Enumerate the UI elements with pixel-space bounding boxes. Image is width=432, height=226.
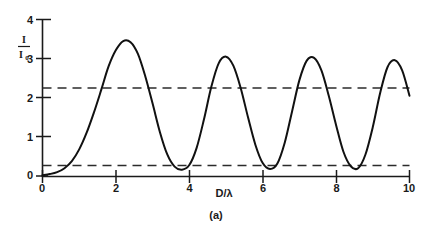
- intensity-curve: [43, 40, 410, 175]
- y-tick-label-1: 1: [27, 131, 33, 143]
- y-axis-label-numerator: I: [22, 34, 26, 45]
- x-tick-label-2: 2: [113, 182, 119, 194]
- x-tick-label-10: 10: [403, 182, 415, 194]
- x-tick-label-8: 8: [333, 182, 339, 194]
- y-axis-ticks: [36, 20, 51, 177]
- y-tick-label-0: 0: [27, 169, 33, 181]
- y-tick-label-4: 4: [27, 14, 34, 26]
- chart-canvas: 4 3 2 1 0 I I 0 0 2 4 6 8 10 D/λ: [0, 0, 432, 226]
- figure-container: 4 3 2 1 0 I I 0 0 2 4 6 8 10 D/λ: [0, 0, 432, 226]
- x-axis-label: D/λ: [215, 187, 232, 199]
- x-tick-label-6: 6: [260, 182, 266, 194]
- x-tick-label-4: 4: [186, 182, 193, 194]
- y-axis-label: I I 0: [18, 34, 30, 62]
- y-axis-label-denominator: I: [19, 49, 23, 60]
- y-axis-label-denominator-subscript: 0: [25, 54, 29, 62]
- figure-caption: (a): [209, 209, 223, 221]
- x-tick-label-0: 0: [39, 182, 45, 194]
- y-tick-label-2: 2: [27, 92, 33, 104]
